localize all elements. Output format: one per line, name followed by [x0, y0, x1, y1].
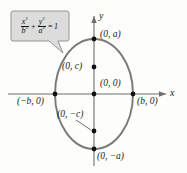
marker-bottom-vertex [92, 147, 97, 152]
term1-numerator-exponent: 2 [25, 16, 27, 21]
equation-callout-text: x2 b2 + y2 a2 = 1 [13, 16, 65, 37]
ellipse-figure: x2 b2 + y2 a2 = 1 x y (0, a) (0, c) (0, … [0, 0, 187, 173]
equation-right-hand-side: 1 [54, 22, 58, 31]
label-origin: (0, 0) [100, 79, 121, 89]
x-axis-label: x [170, 88, 174, 98]
label-bottom-vertex: (0, −a) [97, 152, 124, 162]
equation-term-1: x2 b2 [21, 18, 29, 36]
marker-left-vertex [53, 92, 58, 97]
label-lower-focus: (0, −c) [57, 110, 83, 120]
y-axis-arrowhead [91, 16, 96, 23]
marker-origin [92, 92, 97, 97]
label-right-vertex: (b, 0) [137, 97, 158, 107]
term2-numerator-exponent: 2 [42, 16, 44, 21]
label-upper-focus: (0, c) [62, 62, 82, 72]
marker-lower-focus [92, 129, 97, 134]
equation-equals-sign: = [48, 22, 53, 31]
marker-right-vertex [131, 92, 136, 97]
term2-denominator-exponent: 2 [43, 26, 45, 31]
term1-denominator-exponent: 2 [26, 26, 28, 31]
equation-operator: + [31, 22, 36, 31]
marker-top-vertex [92, 37, 97, 42]
marker-upper-focus [92, 65, 97, 70]
label-top-vertex: (0, a) [100, 30, 121, 40]
label-left-vertex: (−b, 0) [17, 97, 44, 107]
lower-focus-leader-line [76, 120, 91, 130]
y-axis-label: y [99, 11, 103, 21]
equation-term-2: y2 a2 [38, 18, 46, 36]
x-axis-arrowhead [159, 91, 166, 96]
